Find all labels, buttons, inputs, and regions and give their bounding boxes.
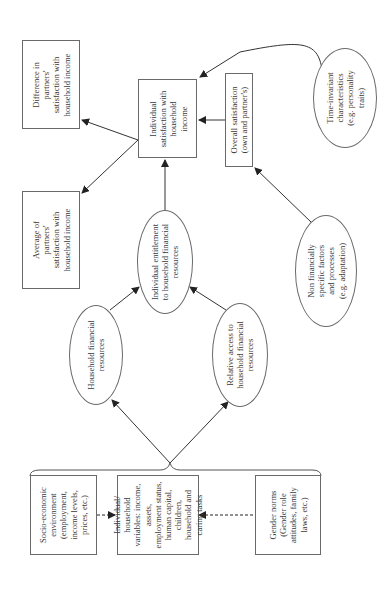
- non-financial-factors-label: Non financially specific factors and pro…: [306, 243, 347, 299]
- gender-norms-label: Gender norms (Gender role attitudes, fam…: [268, 487, 309, 543]
- time-invariant-ellipse: Time-invariant characteristics (e.g. per…: [313, 48, 377, 148]
- individual-household-variables-label: Individual/ household variables: income,…: [112, 482, 204, 549]
- household-financial-resources-label: Household financial resources: [86, 320, 106, 389]
- edge-timeinv-to-indsat: [200, 45, 322, 77]
- edge-nonfin-to-overall: [255, 168, 311, 222]
- time-invariant-label: Time-invariant characteristics (e.g. per…: [325, 70, 366, 126]
- average-partners-label: Average of partners' satisfaction with h…: [31, 209, 72, 272]
- socio-economic-label: Socio-economic environment (employment, …: [38, 487, 89, 543]
- edge-indsat-to-average: [82, 140, 138, 193]
- individual-household-variables-box: Individual/ household variables: income,…: [117, 475, 199, 555]
- overall-satisfaction-box: Overall satisfaction (own and partner's): [225, 73, 253, 167]
- relative-access-ellipse: Relative access to household financial r…: [212, 303, 268, 407]
- edge-hfr-to-entitlement: [110, 287, 139, 310]
- socio-economic-box: Socio-economic environment (employment, …: [30, 475, 97, 555]
- difference-partners-box: Difference in partners' satisfaction wit…: [22, 40, 80, 129]
- edge-inputs-to-relaccess: [170, 402, 228, 463]
- edge-indsat-to-difference: [82, 120, 138, 140]
- edge-relaccess-to-entitlement: [190, 287, 226, 310]
- gender-norms-box: Gender norms (Gender role attitudes, fam…: [255, 475, 321, 555]
- non-financial-factors-ellipse: Non financially specific factors and pro…: [295, 215, 357, 327]
- average-partners-box: Average of partners' satisfaction with h…: [22, 191, 80, 289]
- individual-entitlement-label: Individual entitlement to household fina…: [150, 224, 181, 300]
- household-financial-resources-ellipse: Household financial resources: [69, 305, 123, 405]
- individual-satisfaction-box: Individual satisfaction with household i…: [138, 79, 197, 158]
- individual-entitlement-ellipse: Individual entitlement to household fina…: [137, 210, 193, 314]
- difference-partners-label: Difference in partners' satisfaction wit…: [31, 53, 72, 116]
- overall-satisfaction-label: Overall satisfaction (own and partner's): [229, 86, 249, 153]
- edge-inputs-to-hfr: [112, 400, 170, 463]
- relative-access-label: Relative access to household financial r…: [225, 321, 256, 389]
- individual-satisfaction-label: Individual satisfaction with household i…: [147, 90, 188, 147]
